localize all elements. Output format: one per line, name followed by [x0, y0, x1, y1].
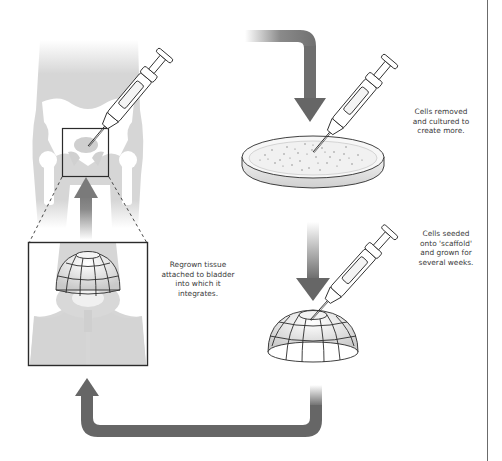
dome-scaffold-icon — [268, 310, 358, 362]
caption-line: attached to bladder — [158, 270, 238, 280]
petri-dish-icon — [242, 136, 384, 188]
caption-line: integrates. — [158, 289, 238, 299]
caption-regrow: Regrown tissue attached to bladder into … — [158, 260, 238, 298]
arrow-up-icon — [74, 177, 98, 240]
caption-line: and grown for — [410, 248, 482, 258]
caption-line: create more. — [404, 126, 478, 136]
caption-line: Cells removed — [404, 107, 478, 117]
caption-line: Cells seeded — [410, 229, 482, 239]
caption-culture: Cells removed and cultured to create mor… — [404, 107, 478, 136]
inset-box — [29, 243, 148, 366]
caption-line: and cultured to — [404, 117, 478, 127]
caption-seed: Cells seeded onto 'scaffold' and grown f… — [410, 229, 482, 267]
arrow-return-icon — [75, 378, 322, 437]
caption-line: several weeks. — [410, 258, 482, 268]
arrow-right-down-icon — [245, 30, 326, 122]
caption-line: into which it — [158, 279, 238, 289]
arrow-down-icon — [296, 222, 330, 301]
page-edge-rule — [487, 0, 488, 461]
caption-line: onto 'scaffold' — [410, 239, 482, 249]
caption-line: Regrown tissue — [158, 260, 238, 270]
